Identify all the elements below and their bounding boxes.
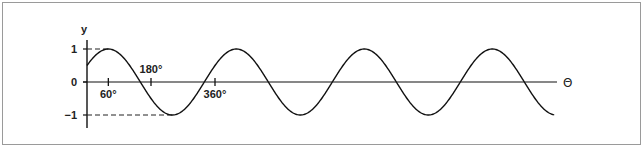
x-tick-label-360: 360° xyxy=(204,88,227,100)
sine-chart: y Θ 60°180°360°10−1 xyxy=(0,0,644,149)
y-tick-label-1: 1 xyxy=(71,43,77,55)
y-tick-label--1: −1 xyxy=(64,109,77,121)
x-axis-label: Θ xyxy=(563,76,572,90)
y-axis-label: y xyxy=(81,23,88,35)
x-tick-label-180: 180° xyxy=(140,63,163,75)
x-tick-label-60: 60° xyxy=(100,88,117,100)
y-tick-label-0: 0 xyxy=(71,76,77,88)
